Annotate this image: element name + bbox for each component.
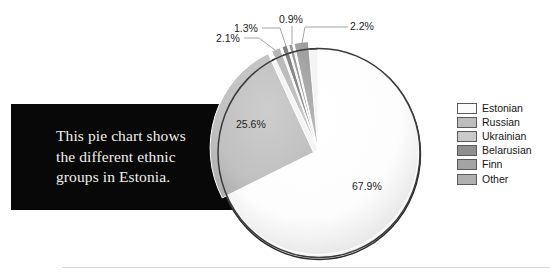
bottom-divider (62, 267, 550, 268)
legend-swatch-estonian (457, 103, 477, 114)
caption-text: This pie chart shows the different ethni… (56, 126, 256, 188)
legend-label-finn: Finn (482, 159, 502, 170)
leader-line-ukrainian (244, 38, 275, 50)
pct-label-other: 2.2% (350, 20, 374, 32)
pie-slice-ukrainian (272, 48, 318, 150)
pct-label-russian: 25.6% (236, 118, 266, 130)
legend-item-estonian[interactable]: Estonian (457, 101, 532, 115)
legend-swatch-finn (457, 159, 477, 170)
leader-lines (244, 26, 348, 50)
pie-slice-belarusian (282, 45, 318, 150)
legend-swatch-ukrainian (457, 131, 477, 142)
pie-chart-figure: This pie chart shows the different ethni… (0, 0, 550, 274)
leader-line-belarusian (262, 28, 286, 46)
legend-swatch-belarusian (457, 145, 477, 156)
legend-label-ukrainian: Ukrainian (482, 131, 526, 142)
pct-label-belarusian: 1.3% (234, 22, 258, 34)
legend-label-other: Other (482, 174, 508, 185)
legend-label-estonian: Estonian (482, 103, 523, 114)
legend-item-russian[interactable]: Russian (457, 115, 532, 129)
legend-swatch-russian (457, 117, 477, 128)
pct-label-estonian: 67.9% (352, 180, 382, 192)
legend-item-ukrainian[interactable]: Ukrainian (457, 129, 532, 143)
legend-item-belarusian[interactable]: Belarusian (457, 144, 532, 158)
legend-item-finn[interactable]: Finn (457, 158, 532, 172)
pct-label-finn: 0.9% (279, 13, 303, 25)
legend-swatch-other (457, 174, 477, 185)
legend-label-russian: Russian (482, 117, 520, 128)
legend-item-other[interactable]: Other (457, 172, 532, 186)
pie-slice-finn (289, 44, 318, 150)
legend: Estonian Russian Ukrainian Belarusian Fi… (457, 101, 532, 186)
pie-slice-other (294, 42, 318, 150)
legend-label-belarusian: Belarusian (482, 145, 532, 156)
caption-block: This pie chart shows the different ethni… (11, 104, 267, 210)
leader-line-other (302, 27, 348, 43)
